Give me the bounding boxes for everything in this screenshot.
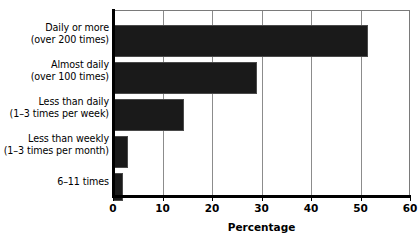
category-label-1-line-0: Almost daily <box>0 59 109 71</box>
bar-1 <box>113 62 257 94</box>
x-axis-title: Percentage <box>113 221 410 233</box>
category-label-2-line-1: (1–3 times per week) <box>0 108 109 120</box>
tick-mark-50 <box>361 196 362 201</box>
category-label-0-line-1: (over 200 times) <box>0 34 109 46</box>
tick-label-50: 50 <box>341 202 381 215</box>
bar-3 <box>113 136 128 168</box>
tick-label-0: 0 <box>93 202 133 215</box>
tick-mark-40 <box>311 196 312 201</box>
bar-chart: Daily or more (over 200 times) Almost da… <box>0 0 418 245</box>
y-axis-line <box>112 9 115 198</box>
tick-mark-20 <box>212 196 213 201</box>
bar-0 <box>113 25 368 57</box>
tick-label-30: 30 <box>242 202 282 215</box>
tick-label-60: 60 <box>390 202 418 215</box>
category-label-1: Almost daily (over 100 times) <box>0 59 109 82</box>
tick-label-10: 10 <box>143 202 183 215</box>
category-label-0-line-0: Daily or more <box>0 22 109 34</box>
tick-mark-10 <box>163 196 164 201</box>
category-label-3: Less than weekly (1–3 times per month) <box>0 133 109 156</box>
tick-mark-60 <box>410 196 411 201</box>
category-label-3-line-0: Less than weekly <box>0 133 109 145</box>
tick-mark-30 <box>262 196 263 201</box>
category-label-2-line-0: Less than daily <box>0 96 109 108</box>
tick-label-20: 20 <box>192 202 232 215</box>
category-label-4-line-0: 6–11 times <box>0 176 109 188</box>
tick-mark-0 <box>113 196 114 201</box>
category-label-4: 6–11 times <box>0 176 109 188</box>
category-label-0: Daily or more (over 200 times) <box>0 22 109 45</box>
bar-2 <box>113 99 184 131</box>
plot-area <box>113 10 410 196</box>
tick-label-40: 40 <box>291 202 331 215</box>
category-label-3-line-1: (1–3 times per month) <box>0 145 109 157</box>
category-labels: Daily or more (over 200 times) Almost da… <box>0 10 109 196</box>
category-label-2: Less than daily (1–3 times per week) <box>0 96 109 119</box>
category-label-1-line-1: (over 100 times) <box>0 71 109 83</box>
